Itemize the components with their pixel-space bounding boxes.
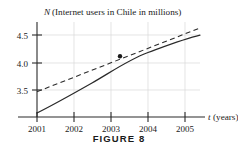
y-axis-title-text: (Internet users in Chile in millions): [52, 7, 181, 17]
x-axis-title-symbol: t: [208, 112, 211, 122]
y-tick-label: 4.5: [17, 31, 29, 41]
grid-lines: [37, 22, 200, 117]
y-tick-label: 3.5: [17, 86, 29, 96]
tangent-line: [37, 28, 200, 92]
data-curve: [37, 35, 200, 113]
figure-caption: FIGURE 8: [0, 133, 238, 144]
x-axis-title-text: (years): [213, 112, 238, 122]
figure-container: 4.5 4.0 3.5 2001 2002 2003 2004 2005 N (…: [0, 0, 238, 156]
y-tick-label: 4.0: [17, 59, 29, 69]
tangent-point-marker: [118, 54, 122, 58]
y-axis-title-symbol: N: [43, 7, 51, 17]
